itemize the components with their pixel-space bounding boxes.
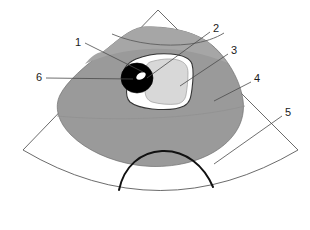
diagram-canvas: 1 2 3 4 5 6 bbox=[0, 0, 310, 230]
ultrasound-diagram-figure: 1 2 3 4 5 6 bbox=[0, 0, 310, 230]
label-1: 1 bbox=[75, 36, 81, 48]
label-5: 5 bbox=[285, 106, 291, 118]
label-4: 4 bbox=[254, 72, 260, 84]
label-6: 6 bbox=[36, 71, 42, 83]
label-3: 3 bbox=[231, 44, 237, 56]
label-2: 2 bbox=[213, 22, 219, 34]
